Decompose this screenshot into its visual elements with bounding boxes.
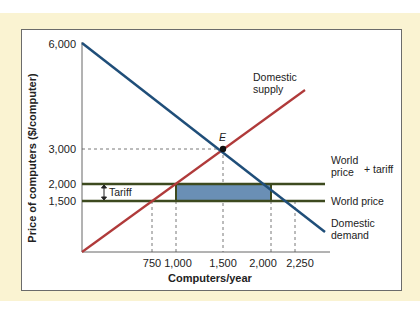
supply-label-line2: supply	[253, 83, 284, 95]
demand-label-line1: Domestic	[331, 217, 375, 229]
x-tick-2000: 2,000	[249, 257, 277, 269]
y-axis-title: Price of computers ($/computer)	[26, 73, 38, 243]
y-tick-2000: 2,000	[48, 178, 76, 190]
x-tick-2250: 2,250	[286, 257, 314, 269]
world-tariff-label-line2: price	[331, 166, 354, 178]
supply-demand-chart: E Tariff 6,000 3,000 2,000 1,500 750 1,0…	[0, 0, 420, 317]
supply-label-line1: Domestic	[253, 71, 297, 83]
world-price-label: World price	[331, 195, 384, 207]
tariff-label: Tariff	[109, 186, 132, 198]
y-tick-6000: 6,000	[48, 38, 76, 50]
demand-label-line2: demand	[331, 229, 369, 241]
x-tick-750: 750	[143, 257, 161, 269]
y-tick-1500: 1,500	[48, 195, 76, 207]
tariff-arrow-icon	[102, 185, 107, 200]
world-tariff-label-line3: + tariff	[364, 163, 393, 175]
domestic-supply-line	[82, 90, 305, 252]
y-tick-3000: 3,000	[48, 143, 76, 155]
x-axis-title: Computers/year	[168, 272, 252, 284]
equilibrium-label: E	[219, 131, 227, 143]
x-tick-1500: 1,500	[209, 257, 237, 269]
equilibrium-point	[220, 146, 226, 152]
shaded-region	[176, 184, 271, 201]
x-tick-1000: 1,000	[164, 257, 192, 269]
world-tariff-label-line1: World	[331, 154, 358, 166]
